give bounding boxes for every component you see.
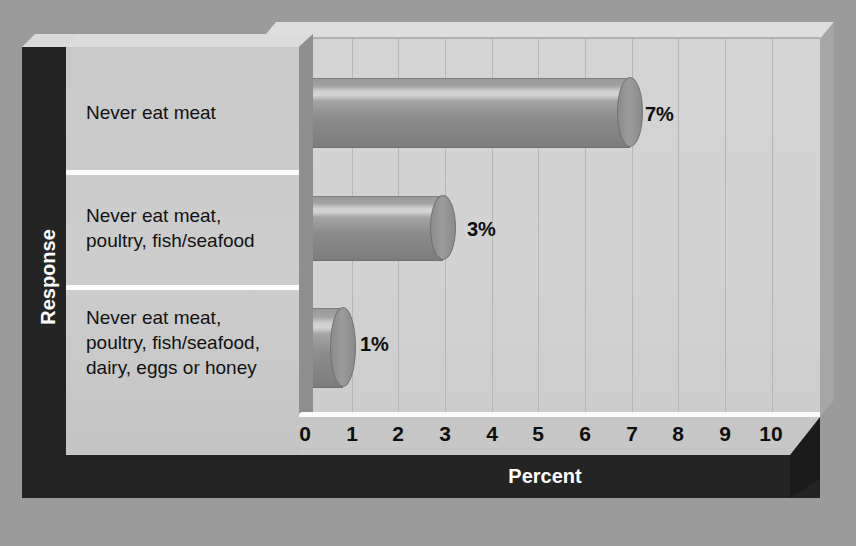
gridline-10	[772, 39, 773, 417]
category-line: Never eat meat,	[86, 203, 291, 228]
xtick-8: 8	[658, 421, 698, 447]
xtick-4: 4	[472, 421, 512, 447]
category-separator-2	[66, 285, 299, 290]
chart-canvas: 0 1 2 3 4 5 6 7 8 9 10 7% 3% 1% Never ea…	[0, 0, 856, 546]
bar-never-eat-meat-poultry-fish[interactable]	[299, 196, 443, 259]
category-line: Never eat meat	[86, 100, 291, 125]
gridline-9	[725, 39, 726, 417]
category-line: poultry, fish/seafood,	[86, 330, 291, 355]
gridline-8	[678, 39, 679, 417]
xtick-3: 3	[425, 421, 465, 447]
xtick-10: 10	[751, 421, 791, 447]
category-panel-side	[299, 34, 313, 414]
xtick-1: 1	[332, 421, 372, 447]
x-axis-title: Percent	[300, 463, 790, 489]
y-axis-title: Response	[36, 197, 60, 357]
bar-body	[299, 78, 630, 148]
category-label-never-eat-meat-poultry-fish: Never eat meat, poultry, fish/seafood	[86, 203, 291, 253]
category-label-never-eat-meat: Never eat meat	[86, 100, 291, 125]
value-label-0: 7%	[645, 103, 674, 126]
plot-right-face	[820, 22, 836, 417]
category-separator-1	[66, 170, 299, 175]
xtick-6: 6	[565, 421, 605, 447]
category-panel-bevel	[66, 34, 313, 48]
xtick-9: 9	[705, 421, 745, 447]
xtick-2: 2	[378, 421, 418, 447]
value-label-2: 1%	[360, 333, 389, 356]
bar-cap-right	[430, 195, 456, 260]
bar-cap-right	[617, 77, 643, 147]
category-line: Never eat meat,	[86, 305, 291, 330]
category-line: poultry, fish/seafood	[86, 228, 291, 253]
bar-body	[299, 196, 443, 261]
bar-cap-right	[330, 307, 356, 387]
y-axis-band: Response	[22, 47, 66, 498]
value-label-1: 3%	[467, 218, 496, 241]
category-line: dairy, eggs or honey	[86, 355, 291, 380]
xtick-5: 5	[518, 421, 558, 447]
xtick-7: 7	[612, 421, 652, 447]
bar-never-eat-meat[interactable]	[299, 78, 630, 146]
category-label-vegan: Never eat meat, poultry, fish/seafood, d…	[86, 305, 291, 380]
